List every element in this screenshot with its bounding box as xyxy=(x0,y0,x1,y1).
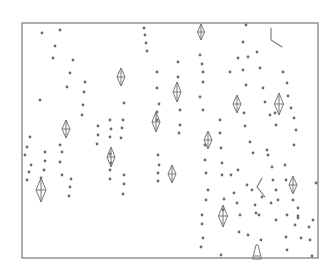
dot-marker xyxy=(70,178,73,181)
dot-marker xyxy=(157,172,160,175)
dot-marker xyxy=(233,192,236,195)
kite-icon xyxy=(36,178,46,202)
dot-marker xyxy=(69,72,72,75)
dot-marker xyxy=(109,169,112,172)
dot-marker xyxy=(61,151,64,154)
dot-marker xyxy=(146,50,149,53)
kite-icon xyxy=(168,165,176,183)
dot-marker xyxy=(109,136,112,139)
dot-marker xyxy=(52,57,55,60)
dot-marker xyxy=(205,199,208,202)
diagram-frame xyxy=(22,23,318,258)
dot-marker xyxy=(286,82,289,85)
dot-marker xyxy=(309,239,312,242)
dot-marker xyxy=(157,154,160,157)
dot-marker xyxy=(82,104,85,107)
dot-marker xyxy=(29,136,32,139)
dot-marker xyxy=(143,27,146,30)
dot-marker xyxy=(123,183,126,186)
dot-marker xyxy=(242,41,245,44)
dots-layer xyxy=(24,24,318,258)
dot-marker xyxy=(201,63,204,66)
dot-marker xyxy=(145,42,148,45)
dot-marker xyxy=(295,129,298,132)
dot-marker xyxy=(43,169,46,172)
dot-marker xyxy=(44,160,47,163)
dot-marker xyxy=(243,112,246,115)
dot-marker xyxy=(286,249,289,252)
angle-mark-icon xyxy=(257,178,265,197)
dot-marker xyxy=(247,56,250,59)
dot-marker xyxy=(202,81,205,84)
dot-marker xyxy=(261,196,264,199)
dot-marker xyxy=(220,147,223,150)
dot-marker xyxy=(245,84,248,87)
dot-marker xyxy=(223,198,226,201)
dot-marker xyxy=(30,164,33,167)
dot-marker xyxy=(207,189,210,192)
dot-marker xyxy=(177,76,180,79)
dot-marker xyxy=(199,96,202,99)
dot-marker xyxy=(201,223,204,226)
dot-marker xyxy=(285,179,288,182)
kite-icon xyxy=(62,120,70,138)
dot-marker xyxy=(258,214,261,217)
dot-marker xyxy=(109,178,112,181)
kite-icon xyxy=(253,245,262,259)
dot-marker xyxy=(204,159,207,162)
dot-marker xyxy=(179,124,182,127)
dot-marker xyxy=(275,219,278,222)
dot-marker xyxy=(110,128,113,131)
dot-marker xyxy=(275,124,278,127)
dot-marker xyxy=(260,239,263,242)
dot-marker xyxy=(282,71,285,74)
dot-marker xyxy=(66,86,69,89)
dot-marker xyxy=(236,202,239,205)
dot-marker xyxy=(109,119,112,122)
dot-marker xyxy=(200,246,203,249)
dot-marker xyxy=(254,204,257,207)
dot-marker xyxy=(72,59,75,62)
dot-marker xyxy=(242,69,245,72)
dot-marker xyxy=(290,107,293,110)
dot-marker xyxy=(269,114,272,117)
dot-marker xyxy=(69,186,72,189)
dot-marker xyxy=(270,202,273,205)
kite-icon xyxy=(117,68,125,86)
kite-icon xyxy=(152,112,160,132)
dot-marker xyxy=(178,132,181,135)
dot-marker xyxy=(238,231,241,234)
kite-icon xyxy=(233,95,241,113)
dot-marker xyxy=(286,214,289,217)
dot-marker xyxy=(297,207,300,210)
dot-marker xyxy=(239,214,242,217)
dot-marker xyxy=(284,164,287,167)
dot-marker xyxy=(264,101,267,104)
dot-marker xyxy=(266,149,269,152)
kite-icon xyxy=(275,93,284,115)
dot-marker xyxy=(201,214,204,217)
dot-marker xyxy=(68,195,71,198)
dot-marker xyxy=(293,144,296,147)
dot-marker xyxy=(230,174,233,177)
dot-marker xyxy=(262,87,265,90)
dot-marker xyxy=(121,127,124,130)
dot-marker xyxy=(122,193,125,196)
dot-marker xyxy=(205,172,208,175)
dot-marker xyxy=(123,102,126,105)
dot-marker xyxy=(59,161,62,164)
kite-icon xyxy=(173,82,181,102)
dot-marker xyxy=(252,152,255,155)
dot-marker xyxy=(59,144,62,147)
dot-marker xyxy=(158,164,161,167)
dot-marker xyxy=(202,109,205,112)
dot-marker xyxy=(267,154,270,157)
dot-marker xyxy=(39,99,42,102)
dot-marker xyxy=(123,174,126,177)
dot-marker xyxy=(251,189,254,192)
dot-marker xyxy=(311,255,314,258)
kite-icon xyxy=(289,176,297,194)
dot-marker xyxy=(275,189,278,192)
dot-marker xyxy=(315,182,318,185)
dot-marker xyxy=(97,134,100,137)
